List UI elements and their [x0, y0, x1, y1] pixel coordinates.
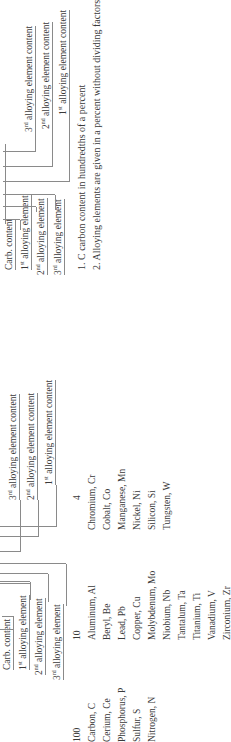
- bracket-line: [5, 166, 52, 167]
- rotated-page: Carb. content 1st alloying element 2nd a…: [0, 0, 231, 742]
- factor-value: 100: [70, 688, 85, 742]
- bracket-line: [0, 563, 66, 564]
- bracket-line: [0, 536, 38, 537]
- element-item: Molybdenum, Mo: [145, 571, 160, 640]
- element-item: Beryl, Be: [100, 571, 115, 640]
- factor-column-10: 10 Aluminum, Al Beryl, Be Lead, Pb Coppe…: [70, 571, 231, 640]
- bracket-line: [48, 574, 49, 602]
- factor-value: 4: [70, 469, 85, 530]
- element-item: Silicon, Si: [145, 469, 160, 530]
- factor-column-4: 4 Chromium, Cr Cobalt, Co Manganese, Mn …: [70, 469, 175, 530]
- bracket-line: [0, 551, 20, 552]
- second-alloying-element-content-label: 2nd alloying element content: [26, 393, 38, 500]
- bracket-line: [56, 485, 57, 527]
- element-item: Nickel, Ni: [130, 469, 145, 530]
- bracket-line: [5, 194, 55, 195]
- element-item: Lead, Pb: [115, 571, 130, 640]
- bracket-line: [5, 151, 35, 152]
- bracket-line: [55, 195, 56, 210]
- note-2: 2. Alloying elements are given in a perc…: [91, 0, 102, 270]
- second-alloying-element-label: 2nd alloying element: [34, 598, 46, 675]
- third-alloying-element-label: 3rd alloying element: [53, 199, 65, 275]
- bracket-line: [69, 115, 70, 182]
- bracket-line: [5, 206, 36, 207]
- element-item: Cobalt, Co: [100, 469, 115, 530]
- bracket-line: [66, 564, 67, 606]
- second-alloying-element-content-label: 2nd alloying element content: [41, 22, 53, 129]
- bracket-line: [0, 526, 56, 527]
- factor-value: 10: [70, 571, 85, 640]
- element-item: Carbon, C: [85, 688, 100, 742]
- element-item: Cerium, Ce: [100, 688, 115, 742]
- element-item: Niobium, Nb: [160, 571, 175, 640]
- bracket-line: [52, 129, 53, 167]
- bracket-line: [20, 220, 21, 230]
- third-alloying-element-content-label: 3rd alloying element content: [24, 26, 36, 132]
- second-alloying-element-label: 2nd alloying element: [36, 198, 48, 275]
- bracket-line: [38, 500, 39, 537]
- element-item: Manganese, Mn: [115, 469, 130, 530]
- first-alloying-element-label: 1st alloying element: [18, 595, 30, 670]
- carb-content-label: Carb. content: [4, 219, 16, 270]
- third-alloying-element-content-label: 3rd alloying element content: [8, 394, 20, 500]
- bracket-line: [36, 207, 37, 212]
- element-item: Copper, Cu: [130, 571, 145, 640]
- bracket-line: [0, 629, 14, 630]
- element-item: Sulfur, S: [130, 688, 145, 742]
- third-alloying-element-label: 3rd alloying element: [52, 604, 64, 680]
- bracket-line: [30, 582, 31, 600]
- element-item: Nitrogen, N: [145, 688, 160, 742]
- factor-column-100: 100 Carbon, C Cerium, Ce Phosphorus, P S…: [70, 688, 160, 742]
- element-item: Tantalum, Ta: [175, 571, 190, 640]
- carb-content-label: Carb. content: [2, 616, 14, 670]
- element-item: Tungsten, W: [160, 469, 175, 530]
- bracket-line: [0, 581, 30, 582]
- bracket-line: [0, 583, 30, 584]
- first-alloying-element-content-label: 1st alloying element content: [58, 10, 70, 115]
- tick-baseline: [5, 144, 6, 224]
- note-1: 1. C carbon content in hundredths of a p…: [76, 85, 87, 270]
- bracket-line: [5, 181, 69, 182]
- element-item: Titanium, Ti: [190, 571, 205, 640]
- element-item: Chromium, Cr: [85, 469, 100, 530]
- bracket-line: [5, 219, 20, 220]
- bracket-line: [0, 573, 48, 574]
- element-item: Vanadium, V: [205, 571, 220, 640]
- element-item: Aluminum, Al: [85, 571, 100, 640]
- bracket-line: [35, 132, 36, 152]
- element-item: Phosphorus, P: [115, 688, 130, 742]
- first-alloying-element-content-label: 1st alloying element content: [44, 380, 56, 485]
- element-item: Zirconium, Zr: [220, 571, 231, 640]
